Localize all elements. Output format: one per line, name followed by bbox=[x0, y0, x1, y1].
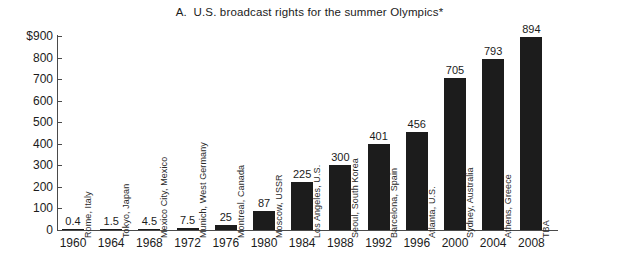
x-axis-tick-label: 1988 bbox=[321, 236, 359, 250]
y-axis-tick bbox=[57, 58, 62, 59]
bar-city-annotation: Mexico City, Mexico bbox=[159, 157, 169, 238]
x-axis-tick-label: 1964 bbox=[92, 236, 130, 250]
bar bbox=[406, 132, 428, 230]
y-axis-tick bbox=[57, 144, 62, 145]
y-axis-tick-label: 400 bbox=[0, 137, 53, 151]
bar-value-label: 894 bbox=[513, 23, 549, 35]
bar-city-annotation: Montreal, Canada bbox=[236, 165, 246, 238]
bar-value-label: 456 bbox=[399, 118, 435, 130]
x-axis-tick-label: 1960 bbox=[54, 236, 92, 250]
bar-city-annotation: Rome, Italy bbox=[83, 191, 93, 238]
y-axis-tick bbox=[57, 101, 62, 102]
bar-city-annotation: Atlanta, U.S. bbox=[427, 186, 437, 238]
bar bbox=[329, 165, 351, 230]
bar-city-annotation: Los Angeles, U.S. bbox=[312, 165, 322, 238]
y-axis-tick bbox=[57, 122, 62, 123]
y-axis-tick-label: 600 bbox=[0, 94, 53, 108]
bar bbox=[62, 229, 84, 230]
x-axis-tick-label: 1984 bbox=[283, 236, 321, 250]
x-axis-tick-label: 1980 bbox=[245, 236, 283, 250]
bar-city-annotation: Moscow, USSR bbox=[274, 174, 284, 238]
bar bbox=[291, 182, 313, 231]
bar bbox=[368, 144, 390, 230]
bar bbox=[444, 78, 466, 230]
y-axis-tick bbox=[57, 208, 62, 209]
y-axis-line bbox=[57, 35, 58, 231]
x-axis-tick-label: 2004 bbox=[474, 236, 512, 250]
x-axis-tick-label: 1968 bbox=[130, 236, 168, 250]
bar-city-annotation: Barcelona, Spain bbox=[389, 168, 399, 238]
bar bbox=[482, 59, 504, 230]
y-axis-tick-label: 700 bbox=[0, 72, 53, 86]
x-axis-tick-label: 1996 bbox=[398, 236, 436, 250]
bar-value-label: 705 bbox=[437, 64, 473, 76]
y-axis-tick-label: 800 bbox=[0, 51, 53, 65]
x-axis-tick-label: 2008 bbox=[512, 236, 550, 250]
y-axis-tick bbox=[57, 230, 62, 231]
chart-figure: A. U.S. broadcast rights for the summer … bbox=[0, 0, 619, 263]
bar bbox=[138, 229, 160, 230]
y-axis-tick-label: 100 bbox=[0, 201, 53, 215]
bar-value-label: 401 bbox=[361, 130, 397, 142]
bar bbox=[177, 228, 199, 230]
y-axis-tick-label: 500 bbox=[0, 115, 53, 129]
y-axis-tick-label: $900 bbox=[0, 29, 53, 43]
bar-city-annotation: TBA bbox=[541, 220, 551, 238]
bar-city-annotation: Athens, Greece bbox=[503, 174, 513, 238]
bar-city-annotation: Sydney, Australia bbox=[465, 167, 475, 238]
bar-city-annotation: Seoul, South Korea bbox=[350, 158, 360, 238]
x-axis-line bbox=[57, 230, 558, 231]
y-axis-tick-label: 0 bbox=[0, 223, 53, 237]
bar bbox=[215, 225, 237, 230]
y-axis-tick-label: 200 bbox=[0, 180, 53, 194]
y-axis-tick bbox=[57, 165, 62, 166]
y-axis-tick bbox=[57, 36, 62, 37]
bar-value-label: 793 bbox=[475, 45, 511, 57]
x-axis-tick-label: 1992 bbox=[360, 236, 398, 250]
bar bbox=[520, 37, 542, 230]
chart-title: A. U.S. broadcast rights for the summer … bbox=[0, 6, 619, 18]
y-axis-tick-label: 300 bbox=[0, 158, 53, 172]
x-axis-tick-label: 2000 bbox=[436, 236, 474, 250]
y-axis-tick bbox=[57, 79, 62, 80]
bar bbox=[100, 229, 122, 230]
bar-city-annotation: Munich, West Germany bbox=[198, 142, 208, 238]
bar bbox=[253, 211, 275, 230]
x-axis-tick-label: 1976 bbox=[207, 236, 245, 250]
x-axis-tick-label: 1972 bbox=[169, 236, 207, 250]
y-axis-tick bbox=[57, 187, 62, 188]
bar-city-annotation: Tokyo, Japan bbox=[121, 184, 131, 238]
